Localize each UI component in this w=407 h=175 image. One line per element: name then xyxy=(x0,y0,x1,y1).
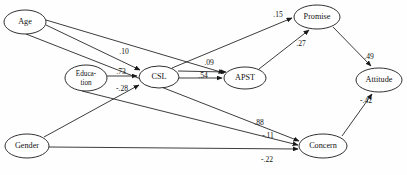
edge-label-concern-attitude: -.42 xyxy=(360,96,372,105)
path-diagram-canvas: .10 .73 -.28 .54 .09 .15 .27 .49 -.42 .8… xyxy=(0,0,407,175)
node-education-label-line2: tion xyxy=(80,79,92,87)
edge-label-csl-apst: .54 xyxy=(198,71,208,80)
edge-label-csl-promise-direct: .15 xyxy=(273,10,283,19)
node-promise-label: Promise xyxy=(304,12,331,21)
node-age-label: Age xyxy=(18,17,32,26)
node-concern-label: Concern xyxy=(309,141,337,150)
node-age[interactable]: Age xyxy=(4,10,46,34)
node-education[interactable]: Educa- tion xyxy=(65,65,107,91)
edge-label-education-csl: .73 xyxy=(116,67,126,76)
edge-label-education-concern: -.11 xyxy=(262,131,274,140)
node-attitude[interactable]: Attitude xyxy=(356,68,402,92)
edge-age-to-apst xyxy=(46,20,224,73)
node-promise[interactable]: Promise xyxy=(294,5,340,29)
path-diagram-figure: .10 .73 -.28 .54 .09 .15 .27 .49 -.42 .8… xyxy=(0,0,407,175)
edge-label-gender-csl: -.28 xyxy=(116,84,128,93)
node-gender-label: Gender xyxy=(15,141,39,150)
node-csl[interactable]: CSL xyxy=(139,66,179,88)
edge-label-csl-promise: .09 xyxy=(204,58,214,67)
edge-gender-to-csl xyxy=(44,85,139,137)
node-gender[interactable]: Gender xyxy=(5,134,49,158)
edge-label-promise-attitude: .49 xyxy=(364,52,374,61)
edge-label-age-csl: .10 xyxy=(119,47,129,56)
node-apst-label: APST xyxy=(235,73,255,82)
edge-csl-to-promise xyxy=(172,18,292,68)
edge-label-age-concern: .88 xyxy=(254,118,264,127)
edge-label-apst-promise: .27 xyxy=(296,39,306,48)
node-education-label-line1: Educa- xyxy=(76,70,97,78)
edge-label-gender-concern: -.22 xyxy=(261,155,273,164)
node-concern[interactable]: Concern xyxy=(299,134,347,158)
node-attitude-label: Attitude xyxy=(366,75,393,84)
edge-gender-to-concern xyxy=(49,147,298,149)
node-apst[interactable]: APST xyxy=(224,67,266,89)
edge-apst-to-promise xyxy=(259,30,309,69)
node-csl-label: CSL xyxy=(151,72,166,81)
